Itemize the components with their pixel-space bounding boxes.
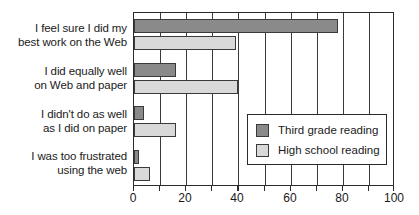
bar-chart: I feel sure I did my best work on the We… — [0, 0, 419, 215]
category-label-3: I was too frustrated using the web — [0, 150, 127, 177]
bar-series-0-category-3 — [134, 150, 139, 164]
x-tick-label-20: 20 — [178, 191, 191, 205]
legend-swatch-icon-third-grade — [256, 124, 269, 137]
category-label-0-line-0: I feel sure I did my — [0, 22, 127, 36]
bar-series-1-category-0 — [134, 36, 236, 50]
category-label-0: I feel sure I did my best work on the We… — [0, 22, 127, 49]
legend-swatch-icon-high-school — [256, 144, 269, 157]
x-tick-label-80: 80 — [335, 191, 348, 205]
x-tick-label-60: 60 — [283, 191, 296, 205]
x-axis-tick-labels: 0 20 40 60 80 100 — [0, 191, 419, 211]
category-label-3-line-0: I was too frustrated — [0, 150, 127, 164]
category-label-2: I didn't do as well as I did on paper — [0, 108, 127, 135]
bar-series-0-category-0 — [134, 19, 338, 33]
category-label-1-line-0: I did equally well — [0, 65, 127, 79]
category-label-3-line-1: using the web — [0, 164, 127, 178]
bar-series-0-category-2 — [134, 106, 144, 120]
legend: Third grade reading High school reading — [247, 114, 387, 165]
x-tick-label-40: 40 — [230, 191, 243, 205]
category-label-0-line-1: best work on the Web — [0, 36, 127, 50]
legend-entry-high-school: High school reading — [256, 140, 386, 160]
bar-series-1-category-1 — [134, 80, 238, 94]
bar-series-1-category-2 — [134, 123, 176, 137]
category-label-2-line-0: I didn't do as well — [0, 108, 127, 122]
category-label-2-line-1: as I did on paper — [0, 122, 127, 136]
bar-series-1-category-3 — [134, 167, 150, 181]
legend-entry-third-grade: Third grade reading — [256, 120, 386, 140]
x-tick-label-0: 0 — [130, 191, 137, 205]
category-label-1: I did equally well on Web and paper — [0, 65, 127, 92]
category-label-1-line-1: on Web and paper — [0, 79, 127, 93]
x-tick-label-100: 100 — [384, 191, 404, 205]
bar-series-0-category-1 — [134, 63, 176, 77]
category-axis-labels: I feel sure I did my best work on the We… — [0, 12, 131, 186]
legend-label-third-grade: Third grade reading — [278, 124, 378, 137]
legend-label-high-school: High school reading — [278, 144, 380, 157]
